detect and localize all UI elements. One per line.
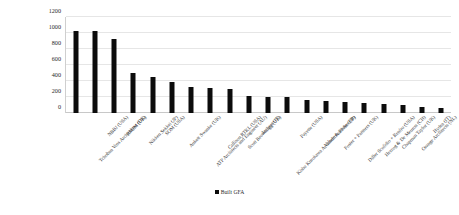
legend-swatch-built-gfa <box>215 190 219 194</box>
bar-slot <box>124 17 143 113</box>
bar <box>189 87 194 113</box>
bar-slot <box>336 17 355 113</box>
bar-slot <box>316 17 335 113</box>
bar-slot <box>66 17 85 113</box>
plot-area <box>65 17 450 113</box>
y-tick-400: 400 <box>31 72 61 78</box>
bar <box>246 96 251 113</box>
bar <box>439 108 444 113</box>
bar-slot <box>278 17 297 113</box>
bar <box>73 31 78 113</box>
bar <box>420 107 425 113</box>
bar <box>208 88 213 113</box>
bar-slot <box>432 17 451 113</box>
y-tick-600: 600 <box>31 56 61 62</box>
bar-slot <box>143 17 162 113</box>
bar <box>227 89 232 113</box>
chart-legend: Built GFA <box>0 189 459 195</box>
bar-slot <box>162 17 181 113</box>
x-label: Aukett Swanke (UK) <box>187 114 221 148</box>
x-label: Callison RTKL (USA) <box>227 114 263 150</box>
bar <box>304 100 309 113</box>
bar-slot <box>374 17 393 113</box>
y-tick-1000: 1000 <box>31 24 61 30</box>
x-label: Payette (USA) <box>299 114 324 139</box>
bar-slot <box>297 17 316 113</box>
bar-slot <box>220 17 239 113</box>
bar-slot <box>201 17 220 113</box>
bar <box>112 39 117 113</box>
bars <box>66 17 451 113</box>
bar-slot <box>355 17 374 113</box>
bar <box>362 103 367 113</box>
bar-slot <box>105 17 124 113</box>
y-tick-200: 200 <box>31 88 61 94</box>
bar <box>285 97 290 113</box>
y-tick-0: 0 <box>31 104 61 110</box>
bar-slot <box>393 17 412 113</box>
bar-slot <box>239 17 258 113</box>
bar <box>150 77 155 113</box>
x-label: ATP Architects and Engineer (AU) <box>214 114 267 167</box>
bar-slot <box>259 17 278 113</box>
x-axis-category-labels: Tchoban Voss Architekten (DE)NBBJ (USA)R… <box>65 114 450 212</box>
bar <box>400 105 405 113</box>
bar-slot <box>413 17 432 113</box>
bar-slot <box>182 17 201 113</box>
bar <box>323 101 328 113</box>
bar-chart: 020040060080010001200 Tchoban Voss Archi… <box>0 0 459 215</box>
bar <box>169 82 174 113</box>
bar <box>92 31 97 113</box>
bar <box>381 104 386 113</box>
bar <box>343 102 348 113</box>
bar <box>266 97 271 113</box>
bar-slot <box>85 17 104 113</box>
bar <box>131 73 136 113</box>
y-tick-1200: 1200 <box>31 8 61 14</box>
legend-label-built-gfa: Built GFA <box>221 189 244 195</box>
y-tick-800: 800 <box>31 40 61 46</box>
x-label: Nikken Sekkei (JP) <box>148 114 180 146</box>
y-axis-tick-labels: 020040060080010001200 <box>28 17 61 113</box>
